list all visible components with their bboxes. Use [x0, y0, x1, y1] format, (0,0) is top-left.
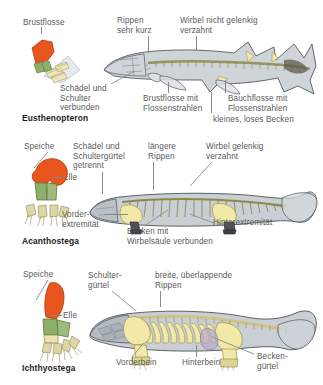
leader-vorderbein [128, 345, 146, 359]
leader-speiche-acanthostega [32, 152, 56, 170]
label-laengere-rippen: längere Rippen [148, 142, 176, 161]
leader-brustflosse-limb [41, 27, 42, 34]
leader-speiche-ichthyostega [32, 280, 56, 302]
leader-becken-acanthostega [140, 210, 170, 228]
label-hinterextremitaet: Hinterextremität [213, 218, 272, 228]
leader-brustflosse-fin [168, 82, 169, 93]
species-name-eusthenopteron: Eusthenopteron [22, 113, 88, 123]
label-becken-mit-wirbelsaeule: Becken mit Wirbelsäule verbunden [127, 227, 213, 246]
panel-acanthostega: Speiche Elle Schädel und Schultergürtel … [0, 128, 323, 253]
leader-schaedel [95, 72, 135, 86]
leader-hinterextremitaet [190, 214, 218, 226]
leader-vorderextremitaet [104, 214, 128, 215]
leader-beckengurtel [212, 337, 258, 357]
label-brustflosse-limb: Brustflosse [23, 18, 65, 28]
label-schaedel-schultergurtel-getrennt: Schädel und Schultergürtel getrennt [73, 142, 125, 171]
eusthenopteron-body-art [98, 36, 320, 98]
label-kleines-loses-becken: kleines, loses Becken [213, 115, 294, 125]
leader-elle-acanthostega [52, 177, 62, 178]
species-name-ichthyostega: Ichthyostega [22, 363, 75, 373]
label-wirbel-nicht-gelenkig: Wirbel nicht gelenkig verzahnt [180, 16, 258, 35]
leader-bauchflosse-fin [225, 80, 226, 93]
label-schaedel-schulter: Schädel und Schulter verbunden [60, 84, 107, 113]
species-name-acanthostega: Acanthostega [22, 236, 79, 246]
leader-hinterbein [196, 345, 197, 357]
label-vorderextremitaet: Vorder- extremität [62, 210, 99, 229]
label-bauchflosse-flossenstrahlen: Bauchflosse mit Flossenstrahlen [228, 94, 287, 113]
leader-becken [211, 92, 212, 113]
label-breite-ueberlappende-rippen: breite, überlappende Rippen [155, 271, 232, 290]
label-hinterbein: Hinterbein [182, 358, 220, 368]
label-beckengurtel: Becken- gürtel [257, 352, 288, 371]
leader-elle-ichthyostega [52, 315, 62, 316]
panel-eusthenopteron: Brustflosse Rippen sehr kurz Wirbel nich… [0, 0, 323, 128]
label-brustflosse-flossenstrahlen: Brustflosse mit Flossenstrahlen [143, 94, 202, 113]
label-rippen-sehr-kurz: Rippen sehr kurz [117, 16, 152, 35]
label-vorderbein: Vorderbein [116, 358, 157, 368]
eusthenopteron-pectoral-fin-art [18, 30, 88, 85]
label-wirbel-gelenkig-verzahnt: Wirbel gelenkig verzahnt [206, 142, 263, 161]
label-schultergurtel: Schulter- gürtel [88, 271, 122, 290]
panel-ichthyostega: Speiche Elle Schulter- gürtel breite, üb… [0, 253, 323, 385]
